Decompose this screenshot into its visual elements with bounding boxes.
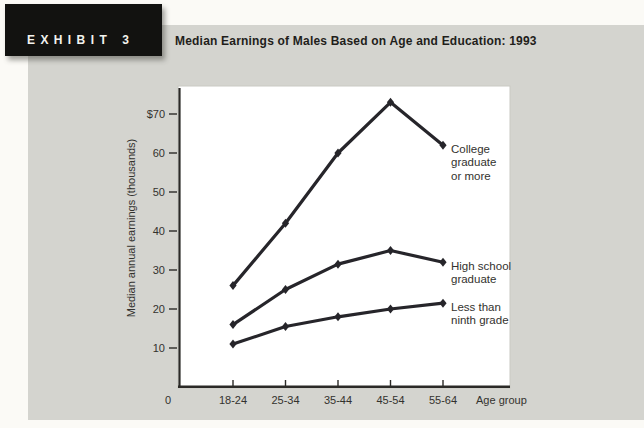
x-axis-title: Age group [476,394,527,406]
y-tick-label: 30 [153,264,165,276]
x-tick-label: 55-64 [429,394,457,406]
y-tick-label: 10 [153,342,165,354]
x-tick-label: 18-24 [219,394,247,406]
y-tick-label: 50 [153,186,165,198]
y-tick-label: 40 [153,225,165,237]
y-axis-title: Median annual earnings (thousands) [125,139,137,318]
y-tick-label: $70 [147,108,165,120]
origin-label: 0 [165,394,171,406]
x-tick-label: 45-54 [376,394,404,406]
y-tick-label: 20 [153,303,165,315]
x-tick-label: 25-34 [271,394,299,406]
series-label-college-graduate-or-more: Collegegraduateor more [451,143,496,182]
x-tick-label: 35-44 [324,394,352,406]
plot-area [178,86,510,388]
series-label-less-than-ninth-grade: Less thanninth grade [451,301,509,327]
y-tick-label: 60 [153,147,165,159]
earnings-line-chart: $7060504030201018-2425-3435-4445-5455-64… [0,0,644,428]
